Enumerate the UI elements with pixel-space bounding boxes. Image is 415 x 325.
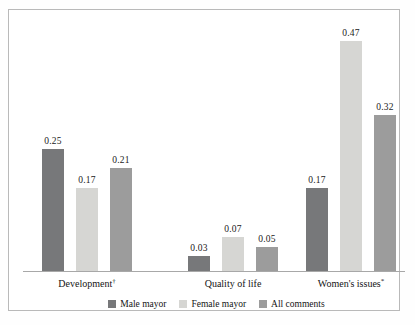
- bar-development-female-mayor: 0.17: [76, 188, 98, 271]
- bar-rect: [374, 115, 396, 271]
- bar-value-label: 0.17: [308, 175, 325, 185]
- bar-rect: [42, 149, 64, 271]
- bar-rect: [306, 188, 328, 271]
- category-label-development: Development†: [58, 278, 115, 289]
- bar-value-label: 0.21: [112, 155, 129, 165]
- bar-value-label: 0.47: [342, 28, 359, 38]
- bar-value-label: 0.32: [376, 102, 393, 112]
- category-label-women-s-issues: Women's issues*: [318, 278, 384, 289]
- legend-item-label: Female mayor: [191, 299, 246, 309]
- category-footnote-mark: †: [112, 277, 116, 285]
- legend-item-label: All comments: [271, 299, 325, 309]
- bar-value-label: 0.07: [224, 224, 241, 234]
- bar-women-s-issues-female-mayor: 0.47: [340, 41, 362, 271]
- bar-value-label: 0.25: [44, 136, 61, 146]
- bar-development-all-comments: 0.21: [110, 168, 132, 271]
- bar-rect: [340, 41, 362, 271]
- bar-value-label: 0.17: [78, 175, 95, 185]
- chart-legend: Male mayorFemale mayorAll comments: [9, 299, 415, 309]
- bar-development-male-mayor: 0.25: [42, 149, 64, 271]
- legend-item-all-comments[interactable]: All comments: [259, 299, 325, 309]
- bar-rect: [76, 188, 98, 271]
- category-footnote-mark: *: [381, 277, 385, 285]
- bar-value-label: 0.05: [258, 234, 275, 244]
- bar-women-s-issues-male-mayor: 0.17: [306, 188, 328, 271]
- bar-value-label: 0.03: [190, 243, 207, 253]
- legend-swatch-icon: [108, 300, 116, 308]
- chart-frame: 0.250.170.210.030.070.050.170.470.32 Dev…: [8, 9, 400, 311]
- legend-swatch-icon: [179, 300, 187, 308]
- legend-item-label: Male mayor: [120, 299, 166, 309]
- bar-quality-of-life-male-mayor: 0.03: [188, 256, 210, 271]
- figure-container: 0.250.170.210.030.070.050.170.470.32 Dev…: [0, 0, 415, 325]
- legend-item-female-mayor[interactable]: Female mayor: [179, 299, 246, 309]
- bar-rect: [110, 168, 132, 271]
- legend-item-male-mayor[interactable]: Male mayor: [108, 299, 166, 309]
- x-axis-baseline: [23, 271, 405, 272]
- bar-rect: [188, 256, 210, 271]
- category-label-quality-of-life: Quality of life: [205, 278, 262, 289]
- bar-women-s-issues-all-comments: 0.32: [374, 115, 396, 271]
- bar-rect: [256, 247, 278, 271]
- bar-quality-of-life-all-comments: 0.05: [256, 247, 278, 271]
- bar-rect: [222, 237, 244, 271]
- legend-swatch-icon: [259, 300, 267, 308]
- bar-quality-of-life-female-mayor: 0.07: [222, 237, 244, 271]
